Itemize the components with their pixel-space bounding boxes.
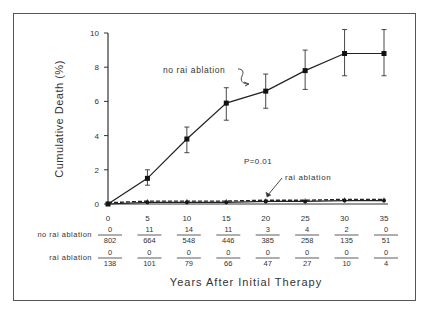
marker-square xyxy=(184,137,189,142)
risk-at-risk: 79 xyxy=(185,259,193,268)
annotation-rai-ablation: rai ablation xyxy=(285,173,331,182)
x-tick-label: 25 xyxy=(301,214,310,223)
annotation-no-rai-ablation: no rai ablation xyxy=(163,65,225,75)
y-tick-label: 10 xyxy=(90,29,99,38)
risk-deaths: 11 xyxy=(146,225,154,234)
series-rai-ablation xyxy=(106,198,386,206)
risk-at-risk: 135 xyxy=(340,236,353,245)
y-tick-label: 2 xyxy=(95,166,100,175)
risk-deaths: 2 xyxy=(344,225,348,234)
arrow-rai-icon xyxy=(268,178,282,195)
x-tick-label: 30 xyxy=(340,214,349,223)
risk-at-risk: 101 xyxy=(143,259,156,268)
risk-deaths: 3 xyxy=(266,225,270,234)
risk-row-label: no rai ablation xyxy=(37,230,92,239)
y-tick-label: 6 xyxy=(95,97,100,106)
risk-at-risk: 802 xyxy=(104,236,117,245)
annotations: no rai ablation P=0.01 rai ablation xyxy=(163,65,331,197)
risk-deaths: 14 xyxy=(185,225,193,234)
p-value-label: P=0.01 xyxy=(244,157,272,166)
risk-at-risk: 66 xyxy=(224,259,232,268)
y-axis-label: Cumulative Death (%) xyxy=(53,60,65,178)
marker-square xyxy=(263,89,268,94)
risk-deaths: 0 xyxy=(305,248,309,257)
risk-row-label: rai ablation xyxy=(49,253,92,262)
x-tick-label: 10 xyxy=(182,214,191,223)
risk-deaths: 0 xyxy=(187,248,191,257)
marker-square xyxy=(303,68,308,73)
risk-deaths: 4 xyxy=(305,225,309,234)
risk-deaths: 0 xyxy=(384,248,388,257)
risk-deaths: 0 xyxy=(108,225,112,234)
marker-square xyxy=(224,101,229,106)
risk-deaths: 0 xyxy=(147,248,151,257)
risk-deaths: 11 xyxy=(224,225,232,234)
survival-chart: 024681005101520253035 no rai ablation P=… xyxy=(0,0,430,314)
x-tick-label: 15 xyxy=(222,214,231,223)
risk-at-risk: 27 xyxy=(303,259,311,268)
marker-square xyxy=(145,176,150,181)
x-tick-label: 20 xyxy=(261,214,270,223)
risk-at-risk: 4 xyxy=(384,259,388,268)
risk-at-risk: 258 xyxy=(301,236,314,245)
y-tick-label: 8 xyxy=(95,63,100,72)
risk-at-risk: 446 xyxy=(222,236,235,245)
risk-deaths: 0 xyxy=(226,248,230,257)
risk-table: no rai ablation0802116641454811446338542… xyxy=(37,225,398,268)
risk-at-risk: 548 xyxy=(183,236,196,245)
y-tick-label: 4 xyxy=(95,132,100,141)
arrow-no-rai-icon xyxy=(238,69,248,84)
risk-at-risk: 10 xyxy=(342,259,350,268)
risk-at-risk: 664 xyxy=(143,236,156,245)
y-tick-label: 0 xyxy=(95,200,100,209)
risk-deaths: 0 xyxy=(266,248,270,257)
risk-deaths: 0 xyxy=(344,248,348,257)
x-axis-label: Years After Initial Therapy xyxy=(170,276,322,288)
marker-square xyxy=(382,51,387,56)
risk-at-risk: 138 xyxy=(104,259,117,268)
risk-at-risk: 385 xyxy=(261,236,274,245)
risk-at-risk: 47 xyxy=(264,259,272,268)
x-tick-label: 5 xyxy=(145,214,150,223)
risk-deaths: 0 xyxy=(108,248,112,257)
x-tick-label: 35 xyxy=(380,214,389,223)
svg-text:Cumulative Death (%): Cumulative Death (%) xyxy=(53,60,65,178)
series-no-rai-ablation xyxy=(106,30,387,207)
x-tick-label: 0 xyxy=(106,214,111,223)
risk-at-risk: 51 xyxy=(382,236,390,245)
marker-square xyxy=(342,51,347,56)
risk-deaths: 0 xyxy=(384,225,388,234)
